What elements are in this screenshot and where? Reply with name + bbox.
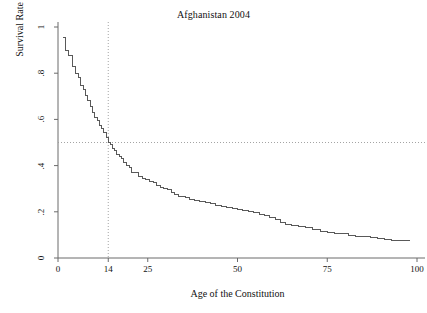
y-tick-label-text-5: 1	[35, 25, 47, 30]
y-tick-label-2: .4	[32, 160, 50, 172]
x-tick-label-1: 14	[93, 263, 123, 276]
y-tick-label-text-3: .6	[35, 116, 47, 123]
y-tick-label-1: .2	[32, 206, 50, 218]
x-tick-label-2: 25	[133, 263, 163, 276]
x-tick-label-4: 75	[312, 263, 342, 276]
y-tick-label-5: 1	[32, 21, 50, 33]
y-tick-label-4: .8	[32, 67, 50, 79]
x-tick-label-3: 50	[223, 263, 253, 276]
y-tick-label-3: .6	[32, 113, 50, 125]
y-tick-label-text-0: 0	[35, 256, 47, 261]
y-tick-label-text-4: .8	[35, 70, 47, 77]
y-tick-label-text-1: .2	[35, 208, 47, 215]
x-tick-label-0: 0	[43, 263, 73, 276]
x-tick-label-5: 100	[402, 263, 427, 276]
survival-curve-0	[63, 37, 409, 240]
y-tick-label-text-2: .4	[35, 162, 47, 169]
chart-figure: Afghanistan 2004 Survival Rate Age of th…	[0, 0, 427, 313]
